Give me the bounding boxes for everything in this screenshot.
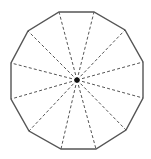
center-point [74,77,79,82]
spoke-line-11 [11,63,77,80]
spoke-line-10 [11,80,77,99]
spoke-line-1 [59,12,77,80]
spoke-line-5 [77,80,143,98]
spoke-line-3 [77,30,125,80]
spoke-line-12 [28,31,77,80]
spoke-line-8 [61,80,77,149]
spoke-line-9 [29,80,77,131]
spoke-line-7 [77,80,96,149]
dodecagon-diagram [0,0,151,159]
spoke-line-4 [77,62,143,80]
spoke-line-2 [77,12,94,80]
